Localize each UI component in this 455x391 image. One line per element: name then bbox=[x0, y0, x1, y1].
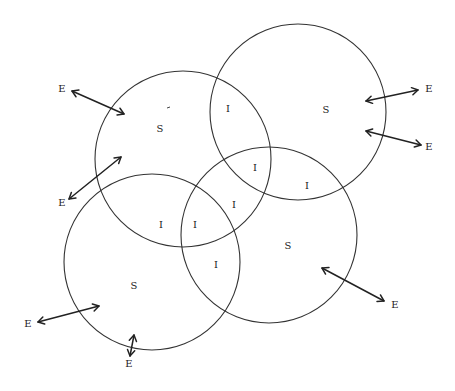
stray-mark bbox=[167, 107, 170, 108]
environment-exchange-arrow bbox=[38, 304, 99, 324]
interface-label: I bbox=[226, 103, 230, 114]
environment-label: E bbox=[425, 83, 432, 94]
double-arrow-icon bbox=[322, 268, 384, 301]
interface-label: I bbox=[305, 180, 309, 191]
systems-diagram: SSSSIIIIIIIEEEEEEE bbox=[0, 0, 455, 391]
system-circle-upper-left bbox=[95, 71, 271, 247]
interface-label: I bbox=[214, 259, 218, 270]
double-arrow-icon bbox=[38, 306, 99, 322]
environment-label: E bbox=[425, 141, 432, 152]
environment-exchange-arrow bbox=[128, 335, 137, 356]
environment-arrows bbox=[38, 88, 421, 356]
environment-label: E bbox=[58, 197, 65, 208]
interface-label: I bbox=[193, 219, 197, 230]
environment-exchange-arrow bbox=[366, 129, 421, 147]
system-circles bbox=[64, 24, 386, 350]
environment-label: E bbox=[391, 299, 398, 310]
system-circle-upper-right bbox=[210, 24, 386, 200]
double-arrow-icon bbox=[366, 131, 421, 145]
environment-label: E bbox=[125, 358, 132, 369]
environment-label: E bbox=[58, 83, 65, 94]
interface-label: I bbox=[232, 199, 236, 210]
system-circle-lower-right bbox=[181, 147, 357, 323]
interface-label: I bbox=[159, 219, 163, 230]
system-label: S bbox=[157, 123, 164, 134]
diagram-labels: SSSSIIIIIIIEEEEEEE bbox=[24, 83, 432, 369]
double-arrow-icon bbox=[366, 90, 418, 101]
environment-exchange-arrow bbox=[366, 88, 418, 104]
system-label: S bbox=[323, 104, 330, 115]
system-label: S bbox=[285, 240, 292, 251]
system-label: S bbox=[131, 280, 138, 291]
environment-label: E bbox=[24, 318, 31, 329]
environment-exchange-arrow bbox=[322, 268, 384, 302]
interface-label: I bbox=[253, 162, 257, 173]
